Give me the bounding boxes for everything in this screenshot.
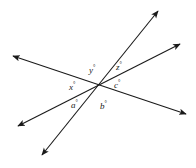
angle-label-b: b° <box>100 100 107 111</box>
degree-symbol-b: ° <box>105 100 107 106</box>
degree-symbol-c: ° <box>118 79 120 85</box>
angle-label-a: a° <box>71 99 78 110</box>
degree-symbol-x: ° <box>73 81 75 87</box>
degree-symbol-y: ° <box>93 64 95 70</box>
angle-label-y: y° <box>89 64 95 75</box>
diagram-canvas <box>0 0 196 168</box>
angle-label-x: x° <box>69 81 75 92</box>
degree-symbol-z: ° <box>120 61 122 67</box>
angle-label-z: z° <box>116 61 122 72</box>
angle-label-c: c° <box>114 79 120 90</box>
line-lower-left-steep-to-upper-right-steep <box>42 11 158 155</box>
degree-symbol-a: ° <box>76 99 78 105</box>
angle-diagram-figure: y° z° c° x° a° b° <box>0 0 196 168</box>
